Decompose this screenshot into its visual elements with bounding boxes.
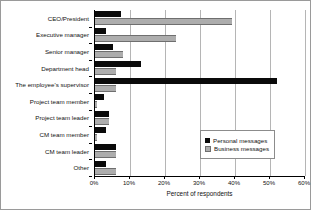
bar-group: [95, 76, 305, 93]
x-tick-label: 0%: [90, 180, 99, 186]
y-tick-mark: [89, 43, 92, 44]
category-label: Executive manager: [36, 31, 89, 38]
legend-item: Personal messages: [205, 137, 269, 144]
category-label: CM team leader: [45, 148, 89, 155]
bar-personal: [95, 144, 116, 150]
y-tick-mark: [89, 126, 92, 127]
x-tick-mark: [164, 176, 165, 179]
bar-spacer: [95, 117, 305, 118]
bar-business: [95, 134, 97, 141]
x-tick-label: 10%: [123, 180, 135, 186]
bar-group: [95, 110, 305, 127]
bar-spacer: [95, 84, 305, 85]
x-tick-label: 30%: [193, 180, 205, 186]
x-tick-label: 50%: [263, 180, 275, 186]
x-tick-label: 60%: [298, 180, 310, 186]
x-tick-mark: [234, 176, 235, 179]
bar-group: [95, 27, 305, 44]
bar-group: [95, 10, 305, 27]
x-tick-mark: [304, 176, 305, 179]
legend-swatch-business-icon: [205, 146, 211, 152]
legend-label: Business messages: [214, 145, 269, 152]
bar-personal: [95, 127, 106, 133]
category-label: Project team member: [30, 98, 89, 105]
bar-group: [95, 60, 305, 77]
bar-business: [95, 168, 116, 175]
bar-group: [95, 43, 305, 60]
bar-business: [95, 18, 232, 25]
category-label: Other: [74, 164, 89, 171]
bar-personal: [95, 28, 106, 34]
legend-swatch-personal-icon: [205, 138, 210, 143]
bar-personal: [95, 78, 277, 84]
bar-personal: [95, 44, 113, 50]
x-tick-mark: [199, 176, 200, 179]
y-tick-mark: [89, 76, 92, 77]
bar-group: [95, 93, 305, 110]
bar-personal: [95, 111, 109, 117]
x-axis-ticks: 0%10%20%30%40%50%60%: [94, 176, 305, 188]
bar-business: [95, 151, 116, 158]
bar-business: [95, 68, 116, 75]
gridline-60: [305, 10, 306, 176]
y-tick-mark: [89, 143, 92, 144]
y-tick-mark: [89, 27, 92, 28]
bar-business: [95, 101, 97, 108]
bar-business: [95, 35, 176, 42]
chart-container: CEO/PresidentExecutive managerSenior man…: [0, 0, 311, 210]
chart-legend: Personal messagesBusiness messages: [200, 130, 275, 159]
y-tick-mark: [89, 110, 92, 111]
bar-personal: [95, 11, 121, 17]
bar-personal: [95, 161, 106, 167]
category-label: Project team leader: [35, 114, 89, 121]
x-tick-label: 20%: [158, 180, 170, 186]
category-label: Department head: [41, 65, 89, 72]
bar-spacer: [95, 67, 305, 68]
x-tick-mark: [94, 176, 95, 179]
y-tick-mark: [89, 93, 92, 94]
y-tick-mark: [89, 159, 92, 160]
category-label: CEO/President: [48, 15, 89, 22]
bar-business: [95, 51, 123, 58]
category-label: Senior manager: [45, 48, 89, 55]
category-label: The employee's supervisor: [15, 81, 89, 88]
legend-label: Personal messages: [213, 137, 267, 144]
x-tick-mark: [129, 176, 130, 179]
bar-business: [95, 85, 116, 92]
bar-business: [95, 118, 109, 125]
bar-spacer: [95, 167, 305, 168]
bar-personal: [95, 61, 141, 67]
x-tick-label: 40%: [228, 180, 240, 186]
x-axis-title: Percent of respondents: [94, 190, 305, 197]
bar-group: [95, 159, 305, 176]
bar-spacer: [95, 100, 305, 101]
y-tick-mark: [89, 60, 92, 61]
bar-personal: [95, 94, 104, 100]
category-label: CM team member: [39, 131, 89, 138]
y-tick-mark: [89, 176, 92, 177]
bar-spacer: [95, 50, 305, 51]
legend-item: Business messages: [205, 145, 269, 152]
category-axis-labels: CEO/PresidentExecutive managerSenior man…: [1, 10, 92, 176]
x-tick-mark: [269, 176, 270, 179]
